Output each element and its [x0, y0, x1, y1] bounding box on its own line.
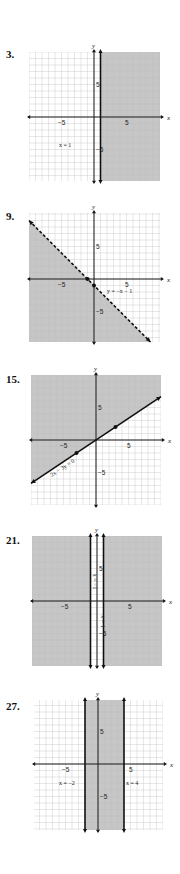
y-axis-label: y	[95, 690, 100, 698]
equation-label: x = 4	[126, 780, 138, 786]
tick-label-y-neg5: −5	[100, 793, 108, 800]
x-axis-label: x	[169, 761, 174, 769]
tick-label-y-5: 5	[100, 728, 104, 735]
graph-neg2-le-x-le-4: xy−555−5x = −2x = 4	[0, 0, 180, 874]
tick-label-x-neg5: −5	[62, 766, 70, 773]
tick-label-x-5: 5	[129, 766, 133, 773]
equation-label: x = −2	[59, 780, 75, 786]
